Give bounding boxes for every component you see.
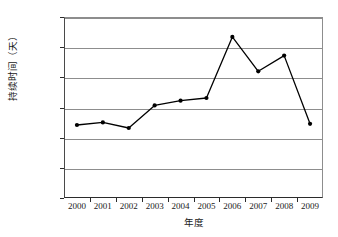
y-axis-title: 持续时间（天） xyxy=(5,11,21,121)
x-tick-label: 2007 xyxy=(245,201,271,211)
x-tick-label: 2008 xyxy=(271,201,297,211)
x-tick-label: 2006 xyxy=(219,201,245,211)
gridline xyxy=(65,18,322,19)
x-axis-title: 年度 xyxy=(64,215,323,229)
x-tick-label: 2002 xyxy=(116,201,142,211)
gridline xyxy=(65,78,322,79)
gridline xyxy=(65,139,322,140)
y-tick-mark xyxy=(60,198,64,199)
x-tick-label: 2000 xyxy=(64,201,90,211)
x-tick-label: 2001 xyxy=(90,201,116,211)
gridline xyxy=(65,169,322,170)
x-tick-label: 2003 xyxy=(142,201,168,211)
y-tick-mark xyxy=(60,77,64,78)
x-tick-label: 2004 xyxy=(168,201,194,211)
y-tick-mark xyxy=(60,47,64,48)
x-tick-label: 2009 xyxy=(297,201,323,211)
x-tick-label: 2005 xyxy=(194,201,220,211)
y-tick-mark xyxy=(60,168,64,169)
plot-area xyxy=(64,17,323,198)
gridline xyxy=(65,48,322,49)
y-tick-mark xyxy=(60,108,64,109)
y-tick-mark xyxy=(60,138,64,139)
line-chart: 持续时间（天） 02004006008001 0001 200 20002001… xyxy=(0,0,338,237)
gridline xyxy=(65,109,322,110)
y-tick-mark xyxy=(60,17,64,18)
